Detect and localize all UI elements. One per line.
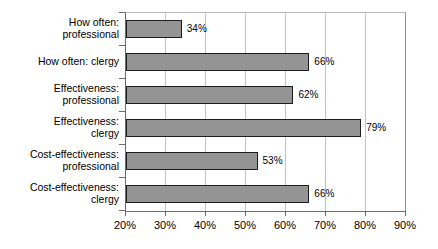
category-label: How often: clergy <box>0 55 119 68</box>
bar <box>126 119 361 137</box>
x-axis-label: 70% <box>305 219 345 232</box>
bar-value-label: 34% <box>187 24 207 34</box>
bar-value-label: 53% <box>263 156 283 166</box>
x-axis-tick <box>405 211 406 216</box>
x-axis-tick <box>125 211 126 216</box>
bar-chart: How often: professional How often: clerg… <box>0 0 438 249</box>
gridline <box>285 13 286 211</box>
category-label: Cost-effectiveness: clergy <box>0 181 119 206</box>
x-axis-label: 40% <box>185 219 225 232</box>
x-axis-tick <box>285 211 286 216</box>
category-axis-labels: How often: professional How often: clerg… <box>0 12 119 210</box>
x-axis-label: 90% <box>385 219 425 232</box>
category-label: Cost-effectiveness: professional <box>0 148 119 173</box>
gridline <box>245 13 246 211</box>
gridline <box>205 13 206 211</box>
x-axis-tick <box>365 211 366 216</box>
x-axis-label: 80% <box>345 219 385 232</box>
x-axis-tick <box>245 211 246 216</box>
bar <box>126 86 293 104</box>
category-label: Effectiveness: professional <box>0 82 119 107</box>
category-label: How often: professional <box>0 16 119 41</box>
bar <box>126 53 309 71</box>
x-axis-tick <box>165 211 166 216</box>
plot-area: 34% 66% 62% 79% 53% 66% <box>125 12 406 212</box>
gridline <box>165 13 166 211</box>
x-axis-tick <box>205 211 206 216</box>
x-axis-tick <box>325 211 326 216</box>
bar <box>126 152 258 170</box>
gridline <box>325 13 326 211</box>
x-axis-label: 30% <box>145 219 185 232</box>
bar <box>126 20 182 38</box>
bar-value-label: 62% <box>298 90 318 100</box>
category-label: Effectiveness: clergy <box>0 115 119 140</box>
x-axis-label: 60% <box>265 219 305 232</box>
x-axis-label: 20% <box>105 219 145 232</box>
bar-value-label: 66% <box>314 189 334 199</box>
bar-value-label: 79% <box>366 123 386 133</box>
bar <box>126 185 309 203</box>
bar-value-label: 66% <box>314 57 334 67</box>
x-axis-label: 50% <box>225 219 265 232</box>
gridline <box>365 13 366 211</box>
